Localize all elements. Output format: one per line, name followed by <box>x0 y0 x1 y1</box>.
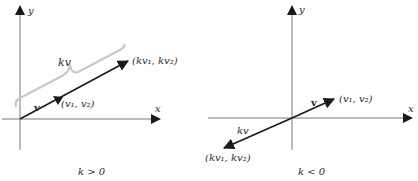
axes: y x <box>2 5 161 150</box>
y-axis-arrowhead-icon <box>287 5 297 15</box>
x-axis-label: x <box>155 103 161 114</box>
kv-label: kv <box>58 56 72 69</box>
x-axis-label: x <box>408 103 414 114</box>
v-label: v <box>33 102 41 113</box>
v-label: v <box>310 97 318 108</box>
panel-k-negative: y x v (v₁, v₂) kv (kv₁, kv₂) k < 0 <box>205 4 414 177</box>
v-endpoint-label: (v₁, v₂) <box>339 93 373 104</box>
vector-kv <box>224 118 292 148</box>
y-axis-label: y <box>27 5 34 16</box>
v-endpoint-label: (v₁, v₂) <box>61 98 95 109</box>
kv-endpoint-label: (kv₁, kv₂) <box>132 55 178 66</box>
x-axis-arrowhead-icon <box>151 114 161 124</box>
caption-k-positive: k > 0 <box>78 166 106 177</box>
kv-label: kv <box>237 125 249 136</box>
x-axis-arrowhead-icon <box>403 113 413 123</box>
panel-k-positive: y x kv v (v₁, v₂) (kv₁, kv₂) k > 0 <box>2 5 178 177</box>
scalar-multiple-diagram: y x kv v (v₁, v₂) (kv₁, kv₂) k > 0 y x <box>0 0 418 181</box>
y-axis-label: y <box>298 4 305 15</box>
caption-k-negative: k < 0 <box>298 166 326 177</box>
y-axis-arrowhead-icon <box>15 5 25 15</box>
kv-endpoint-label: (kv₁, kv₂) <box>205 152 251 163</box>
